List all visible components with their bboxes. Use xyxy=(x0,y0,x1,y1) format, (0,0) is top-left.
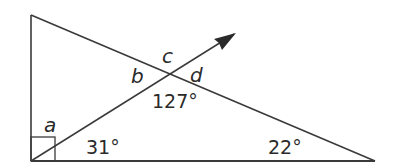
arrowhead-icon xyxy=(214,33,236,50)
label-31-degrees: 31° xyxy=(86,136,120,158)
label-c: c xyxy=(162,44,173,68)
transversal-ray xyxy=(31,34,234,161)
hypotenuse xyxy=(31,15,375,161)
triangle-diagram: a b c d 127° 31° 22° xyxy=(0,0,396,164)
label-127-degrees: 127° xyxy=(152,90,198,112)
label-22-degrees: 22° xyxy=(268,136,302,158)
label-a: a xyxy=(44,113,56,137)
label-b: b xyxy=(131,64,144,88)
label-d: d xyxy=(190,63,203,87)
